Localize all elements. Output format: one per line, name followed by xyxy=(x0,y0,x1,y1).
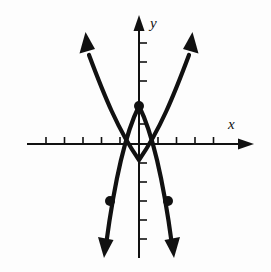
graph-figure: y x xyxy=(0,0,271,272)
right-point-marker xyxy=(163,196,173,206)
figure-background xyxy=(0,0,271,272)
coordinate-plane: y x xyxy=(0,0,271,272)
vertex-point-marker xyxy=(134,101,144,111)
left-point-marker xyxy=(105,196,115,206)
y-axis-label: y xyxy=(148,15,157,31)
x-axis-label: x xyxy=(227,116,235,132)
